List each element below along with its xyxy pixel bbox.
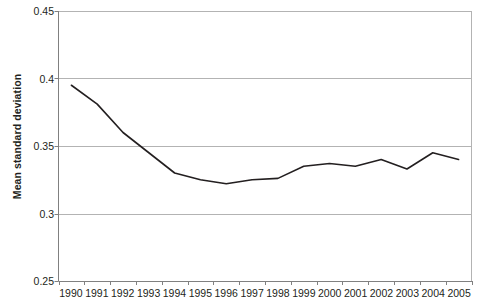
data-series-line [71,85,458,184]
x-tick-label: 1996 [213,288,239,304]
x-tick-label: 1997 [239,288,265,304]
chart-container: Mean standard deviation 0.45 0.4 0.35 0.… [0,0,483,307]
x-tick-label: 2002 [369,288,395,304]
gridlines [59,12,472,282]
x-tick-label: 2001 [343,288,369,304]
plot-area [0,0,483,307]
x-tick-label: 1995 [187,288,213,304]
x-tick-label: 2004 [420,288,446,304]
x-tick-label: 2005 [446,288,472,304]
x-tick-label: 2003 [394,288,420,304]
x-tick-label: 1993 [136,288,162,304]
x-tick-label: 1992 [110,288,136,304]
x-tick-label: 1999 [291,288,317,304]
x-tick-label: 2000 [317,288,343,304]
x-tick-label: 1994 [162,288,188,304]
x-tick-label: 1990 [58,288,84,304]
x-axis-tick-labels: 1990199119921993199419951996199719981999… [58,288,472,304]
x-tick-label: 1991 [84,288,110,304]
x-axis-ticks [55,12,473,286]
x-tick-label: 1998 [265,288,291,304]
